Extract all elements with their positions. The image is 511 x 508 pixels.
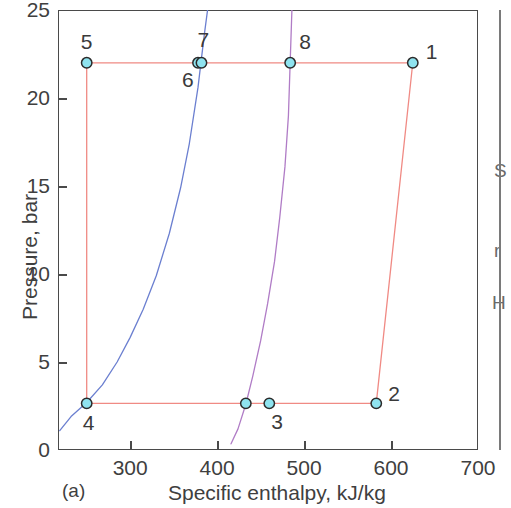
y-axis-tick-label-5: 5: [2, 351, 50, 372]
data-point-marker-8: [285, 58, 295, 68]
data-point-label-1: 1: [426, 41, 438, 62]
data-point-marker-unlabeled: [241, 398, 251, 408]
y-axis-tick-label-15: 15: [2, 175, 50, 196]
x-axis-tick-mark-500: [304, 441, 306, 450]
x-axis-tick-label-300: 300: [90, 457, 170, 478]
x-axis-tick-label-700: 700: [438, 457, 511, 478]
data-point-label-2: 2: [388, 383, 400, 404]
plot-canvas: [58, 10, 478, 450]
y-axis-title: Pressure, bar: [18, 194, 42, 320]
y-axis-tick-mark-10: [58, 274, 67, 276]
y-axis-tick-label-25: 25: [2, 0, 50, 20]
y-axis-tick-label-0: 0: [2, 439, 50, 460]
data-point-label-7: 7: [197, 29, 209, 50]
data-point-marker-4: [82, 398, 92, 408]
neighbour-figure-axis-fragment: [499, 10, 501, 450]
x-axis-title: Specific enthalpy, kJ/kg: [168, 481, 386, 505]
y-axis-tick-label-20: 20: [2, 87, 50, 108]
series-saturated-vapor-line: [231, 10, 292, 444]
x-axis-tick-label-400: 400: [177, 457, 257, 478]
y-axis-tick-mark-5: [58, 362, 67, 364]
data-point-label-4: 4: [83, 412, 95, 433]
x-axis-tick-mark-300: [130, 441, 132, 450]
data-point-label-3: 3: [271, 411, 283, 432]
y-axis-tick-mark-15: [58, 186, 67, 188]
data-point-marker-5: [82, 58, 92, 68]
x-axis-tick-label-600: 600: [351, 457, 431, 478]
data-point-label-5: 5: [81, 31, 93, 52]
data-point-marker-2: [371, 398, 381, 408]
series-refrigeration-cycle-state-path: [87, 63, 413, 404]
data-point-marker-1: [408, 58, 418, 68]
data-point-marker-3: [264, 398, 274, 408]
y-axis-tick-mark-20: [58, 98, 67, 100]
x-axis-tick-mark-600: [391, 441, 393, 450]
panel-caption: (a): [62, 480, 85, 502]
data-point-label-6: 6: [182, 69, 194, 90]
data-point-marker-7: [196, 58, 206, 68]
data-point-label-8: 8: [299, 31, 311, 52]
x-axis-tick-label-500: 500: [264, 457, 344, 478]
x-axis-tick-mark-400: [217, 441, 219, 450]
